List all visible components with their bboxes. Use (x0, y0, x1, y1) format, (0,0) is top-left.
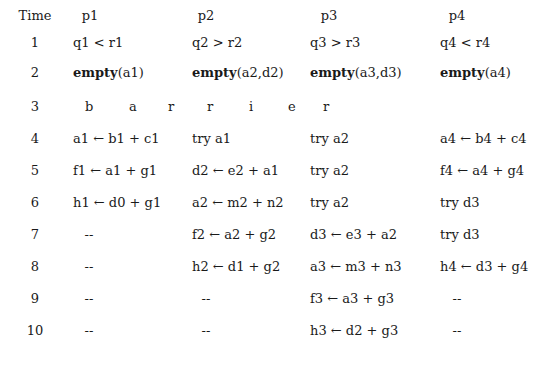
cell-p3: f3 ← a3 + g3 (310, 291, 394, 307)
subscript: 4 (448, 259, 456, 274)
cell-p2: f2 ← a2 + g2 (192, 227, 276, 243)
subscript: 2 (200, 195, 208, 210)
subscript: 4 (445, 163, 453, 178)
time-value: 4 (31, 131, 39, 147)
barrier-letter: r (323, 99, 329, 115)
cell-p4: q4 < r4 (440, 35, 490, 51)
subscript: 2 (235, 163, 243, 178)
subscript: 3 (471, 195, 479, 210)
subscript: 4 (516, 163, 524, 178)
subscript: 3 (318, 227, 326, 242)
cell-p4: try d3 (440, 195, 480, 211)
subscript: 2 (200, 35, 208, 50)
time-value: 10 (27, 323, 44, 339)
cell-p4: h4 ← d3 + g4 (440, 259, 528, 275)
time-value: 6 (31, 195, 39, 211)
subscript: 2 (268, 227, 276, 242)
cell-p1: -- (85, 323, 94, 339)
subscript: 1 (149, 163, 157, 178)
subscript: 1 (90, 8, 98, 23)
subscript: 3 (390, 323, 398, 338)
subscript: 3 (318, 35, 326, 50)
cell-p3: a3 ← m3 + n3 (310, 259, 402, 275)
cell-p1: a1 ← b1 + c1 (73, 131, 160, 147)
cell-p1: empty(a1) (73, 65, 144, 81)
subscript: 3 (352, 35, 360, 50)
subscript: 3 (315, 291, 323, 306)
time-value: 3 (31, 99, 39, 115)
cell-p2: q2 > r2 (192, 35, 242, 51)
cell-p4: f4 ← a4 + g4 (440, 163, 524, 179)
subscript: 3 (393, 259, 401, 274)
subscript: 3 (318, 323, 326, 338)
keyword-empty: empty (73, 65, 118, 80)
header-time: Time (19, 8, 52, 24)
barrier-letter: b (85, 99, 93, 115)
time-value: 1 (31, 35, 39, 51)
subscript: 4 (498, 65, 506, 80)
cell-p1: h1 ← d0 + g1 (73, 195, 161, 211)
cell-p1: -- (85, 291, 94, 307)
subscript: 0 (117, 195, 125, 210)
subscript: 1 (223, 131, 231, 146)
cell-p1: -- (85, 227, 94, 243)
subscript: 3 (368, 65, 376, 80)
subscript: 4 (480, 163, 488, 178)
subscript: 3 (350, 291, 358, 306)
cell-p3: try a2 (310, 195, 349, 211)
cell-p2: h2 ← d1 + g2 (192, 259, 280, 275)
subscript: 1 (131, 65, 139, 80)
cell-p2: -- (202, 323, 211, 339)
subscript: 1 (151, 131, 159, 146)
subscript: 2 (240, 195, 248, 210)
subscript: 4 (448, 131, 456, 146)
subscript: 1 (81, 131, 89, 146)
subscript: 3 (386, 291, 394, 306)
cell-p1: -- (85, 259, 94, 275)
barrier-letter: r (168, 99, 174, 115)
cell-p3: empty(a3,d3) (310, 65, 402, 81)
cell-p1: q1 < r1 (73, 35, 123, 51)
header-processor-4: p4 (449, 8, 466, 24)
subscript: 1 (271, 163, 279, 178)
subscript: 4 (482, 35, 490, 50)
subscript: 3 (318, 259, 326, 274)
subscript: 2 (234, 35, 242, 50)
cell-p3: try a2 (310, 163, 349, 179)
subscript: 1 (153, 195, 161, 210)
barrier-letter: e (288, 99, 296, 115)
subscript: 1 (81, 195, 89, 210)
cell-p4: a4 ← b4 + c4 (440, 131, 527, 147)
subscript: 1 (81, 35, 89, 50)
subscript: 2 (232, 227, 240, 242)
cell-p1: f1 ← a1 + g1 (73, 163, 157, 179)
time-value: 5 (31, 163, 39, 179)
subscript: 2 (200, 163, 208, 178)
time-value: 2 (31, 65, 39, 81)
time-value: 7 (31, 227, 39, 243)
cell-p3: d3 ← e3 + a2 (310, 227, 397, 243)
cell-p3: try a2 (310, 131, 349, 147)
subscript: 4 (518, 131, 526, 146)
subscript: 4 (484, 131, 492, 146)
subscript: 1 (236, 259, 244, 274)
header-processor-2: p2 (198, 8, 215, 24)
subscript: 2 (200, 259, 208, 274)
subscript: 3 (484, 259, 492, 274)
cell-p4: -- (453, 291, 462, 307)
subscript: 1 (117, 131, 125, 146)
time-value: 9 (31, 291, 39, 307)
subscript: 2 (341, 131, 349, 146)
keyword-empty: empty (192, 65, 237, 80)
subscript: 2 (389, 227, 397, 242)
subscript: 4 (520, 259, 528, 274)
subscript: 2 (341, 163, 349, 178)
keyword-empty: empty (440, 65, 485, 80)
cell-p3: q3 > r3 (310, 35, 360, 51)
subscript: 2 (250, 65, 258, 80)
cell-p2: -- (202, 291, 211, 307)
subscript: 4 (448, 35, 456, 50)
cell-p4: -- (453, 323, 462, 339)
cell-p2: empty(a2,d2) (192, 65, 284, 81)
subscript: 1 (115, 35, 123, 50)
